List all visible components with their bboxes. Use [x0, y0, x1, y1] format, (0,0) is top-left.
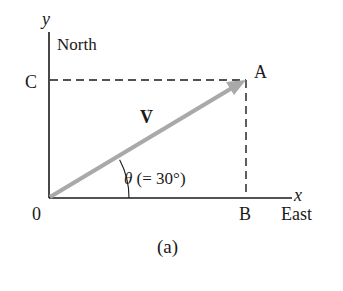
- point-a-label: A: [254, 63, 267, 81]
- north-label: North: [57, 36, 97, 53]
- vector-v-label: → V: [140, 108, 153, 126]
- east-label: East: [281, 205, 312, 223]
- x-axis-label: x: [294, 186, 302, 204]
- vector-arrow-mark: →: [141, 104, 152, 114]
- point-b-label: B: [239, 205, 251, 223]
- vector-diagram: y North C A → V θ (= 30°) 0 B x East (a): [0, 0, 343, 291]
- theta-symbol: θ: [124, 169, 132, 188]
- y-axis-label: y: [42, 10, 50, 28]
- figure-caption: (a): [157, 237, 178, 256]
- angle-label: θ (= 30°): [124, 170, 186, 187]
- angle-value: (= 30°): [137, 169, 186, 188]
- origin-label: 0: [32, 205, 41, 223]
- point-c-label: C: [25, 73, 37, 91]
